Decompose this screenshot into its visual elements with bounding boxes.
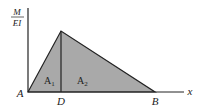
point-label-a: A [16,87,24,99]
point-label-b: B [152,95,159,107]
x-axis-label: x [187,85,193,97]
point-label-d: D [56,95,65,107]
mei-diagram: M EI x A D B A1 A2 [0,0,202,109]
y-axis-label-numerator: M [12,7,21,17]
y-axis-label-denominator: EI [12,18,22,28]
